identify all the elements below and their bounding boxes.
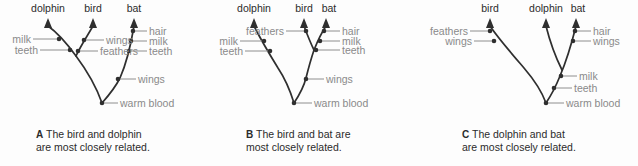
node-bat-hair — [573, 29, 578, 34]
arrow-bat — [130, 18, 138, 28]
node-bat-milk — [318, 39, 323, 44]
trait-label-teeth-dolphin: teeth — [15, 44, 39, 56]
branch-bird — [490, 26, 546, 103]
trait-label-teeth-bat: teeth — [342, 44, 366, 56]
trait-label-warm-blood: warm blood — [565, 97, 620, 109]
panel-a-tree: dolphin bird bat milk teeth wings feathe… — [0, 0, 212, 128]
phylogeny-figure: dolphin bird bat milk teeth wings feathe… — [0, 0, 638, 166]
trait-label-wings-stem: wings — [325, 73, 353, 85]
arrow-bat — [322, 18, 330, 28]
node-dolphin-teeth — [268, 49, 273, 54]
branch-bat — [546, 26, 576, 103]
branch-dolphin — [254, 26, 294, 103]
taxon-label-bird: bird — [84, 2, 102, 14]
trait-label-warm-blood: warm blood — [313, 97, 368, 109]
node-stem-warm-blood — [544, 101, 549, 106]
caption-letter-c: C — [462, 129, 469, 140]
arrow-dolphin — [542, 18, 550, 28]
node-bird-wings — [492, 39, 497, 44]
node-stem-wings — [304, 77, 309, 82]
trait-label-milk-stem: milk — [579, 70, 598, 82]
node-stem-warm-blood — [100, 101, 105, 106]
caption-c-line1: The dolphin and bat — [472, 128, 565, 140]
arrow-bat — [572, 18, 580, 28]
node-stem-teeth — [552, 86, 557, 91]
trait-label-wings-bird: wings — [444, 35, 472, 47]
trait-label-warm-blood: warm blood — [119, 97, 174, 109]
branch-bat — [294, 26, 326, 103]
caption-letter-b: B — [246, 129, 253, 140]
caption-letter-a: A — [36, 129, 43, 140]
panel-b: dolphin bird bat milk teeth feathers hai… — [212, 0, 424, 166]
arrow-bird — [300, 18, 308, 28]
taxon-label-bird: bird — [481, 2, 499, 14]
caption-c-line2: are most closely related. — [462, 141, 576, 154]
taxon-label-dolphin: dolphin — [31, 2, 65, 14]
node-bat-hair — [131, 29, 136, 34]
taxon-label-bird: bird — [295, 2, 313, 14]
trait-label-teeth-stem: teeth — [574, 82, 598, 94]
caption-b: B The bird and bat are most closely rela… — [212, 128, 424, 154]
caption-a: A The bird and dolphin are most closely … — [0, 128, 212, 154]
node-bird-feathers — [304, 29, 309, 34]
panel-c: bird dolphin bat feathers wings hair win… — [424, 0, 638, 166]
taxon-label-bat: bat — [322, 2, 337, 14]
panel-b-tree: dolphin bird bat milk teeth feathers hai… — [212, 0, 424, 128]
node-bird-feathers — [76, 49, 81, 54]
node-dolphin-milk — [262, 39, 267, 44]
node-dolphin-teeth — [68, 48, 73, 53]
taxon-label-bat: bat — [127, 2, 142, 14]
trait-label-feathers-bird: feathers — [100, 45, 138, 57]
branch-dolphin — [546, 26, 562, 70]
taxon-label-bat: bat — [571, 2, 586, 14]
caption-c: C The dolphin and bat are most closely r… — [424, 128, 636, 154]
panel-a: dolphin bird bat milk teeth wings feathe… — [0, 0, 212, 166]
branch-dolphin — [48, 26, 102, 103]
taxon-label-dolphin: dolphin — [237, 2, 271, 14]
node-bat-hair — [322, 29, 327, 34]
trait-label-feathers-bird: feathers — [246, 25, 284, 37]
caption-b-line2: most closely related. — [246, 141, 351, 154]
node-bat-teeth — [314, 48, 319, 53]
trait-label-teeth-dolphin: teeth — [220, 45, 244, 57]
node-bat-wings — [571, 39, 576, 44]
node-bird-feathers — [488, 29, 493, 34]
node-stem-warm-blood — [292, 101, 297, 106]
node-stem-milk — [559, 74, 564, 79]
arrow-bird — [486, 18, 494, 28]
arrow-dolphin — [44, 18, 52, 28]
trait-label-wings-stem: wings — [137, 73, 165, 85]
node-bird-wings — [82, 38, 87, 43]
trait-label-teeth-bat: teeth — [149, 45, 173, 57]
caption-b-line1: The bird and bat are — [256, 128, 351, 140]
caption-a-line2: are most closely related. — [36, 141, 150, 154]
taxon-label-dolphin: dolphin — [529, 2, 563, 14]
node-dolphin-milk — [57, 37, 62, 42]
node-stem-wings — [116, 77, 121, 82]
panel-c-tree: bird dolphin bat feathers wings hair win… — [424, 0, 638, 128]
arrow-bird — [89, 18, 97, 28]
caption-a-line1: The bird and dolphin — [46, 128, 142, 140]
trait-label-wings-bat: wings — [592, 35, 620, 47]
